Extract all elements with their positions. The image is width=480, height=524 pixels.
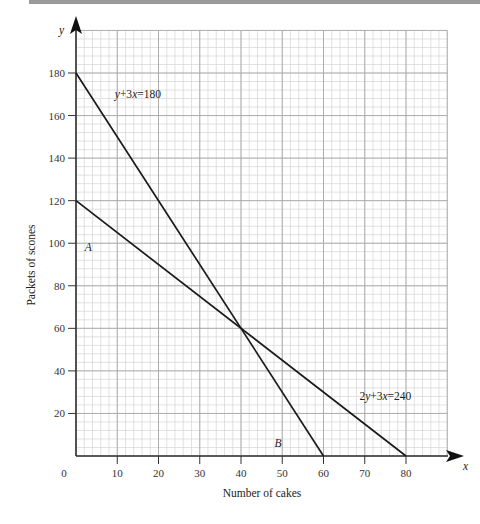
equation-label: y+3x=180	[114, 88, 161, 101]
x-tick-label: 50	[277, 467, 289, 479]
x-tick-label: 80	[401, 467, 413, 479]
x-tick-label: 40	[236, 467, 248, 479]
y-axis-symbol: y	[58, 24, 65, 37]
x-tick-label: 20	[153, 467, 165, 479]
origin-label: 0	[61, 467, 67, 479]
x-tick-label: 60	[318, 467, 330, 479]
y-tick-label: 20	[54, 407, 66, 419]
y-tick-label: 60	[54, 322, 66, 334]
chart-labels: Number of cakesPackets of sconesxyy+3x=1…	[25, 24, 469, 499]
x-axis-symbol: x	[462, 460, 469, 472]
y-axis-title: Packets of scones	[25, 224, 37, 306]
x-tick-label: 30	[194, 467, 206, 479]
axis-ticks: 1020304050607080204060801001201401601800	[49, 67, 413, 479]
y-tick-label: 180	[49, 67, 66, 79]
y-tick-label: 160	[49, 110, 66, 122]
region-label-b: B	[275, 437, 282, 449]
y-tick-label: 100	[49, 237, 66, 249]
x-tick-label: 70	[359, 467, 371, 479]
equation-label: 2y+3x=240	[359, 390, 411, 403]
x-axis-title: Number of cakes	[223, 487, 302, 499]
linear-programming-chart: 1020304050607080204060801001201401601800…	[0, 0, 480, 524]
y-tick-label: 140	[49, 152, 66, 164]
y-tick-label: 120	[49, 195, 66, 207]
x-tick-label: 10	[112, 467, 124, 479]
region-label-a: A	[84, 241, 93, 253]
x-axis-arrow-icon	[446, 450, 464, 462]
y-tick-label: 80	[54, 280, 66, 292]
y-tick-label: 40	[54, 365, 66, 377]
